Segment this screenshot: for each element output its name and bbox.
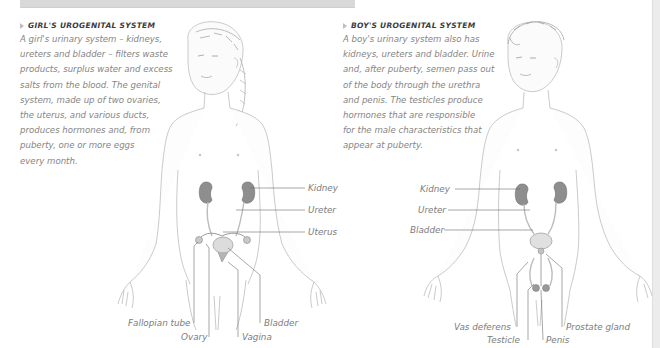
kidney-icon <box>199 182 255 203</box>
bladder-icon <box>530 233 552 292</box>
label-ureter: Ureter <box>418 205 446 215</box>
girl-figure-svg <box>0 0 330 348</box>
label-fallopian-tube: Fallopian tube <box>128 318 191 328</box>
page-edge-strip <box>652 0 660 348</box>
label-penis: Penis <box>546 335 569 345</box>
label-kidney: Kidney <box>420 184 450 194</box>
girl-panel: Girl's urogenital system A girl's urinar… <box>0 0 330 348</box>
label-vagina: Vagina <box>242 332 272 342</box>
label-prostate-gland: Prostate gland <box>566 322 630 332</box>
label-testicle: Testicle <box>487 335 520 345</box>
boy-figure-svg <box>330 0 652 348</box>
label-bladder: Bladder <box>264 318 298 328</box>
label-ovary: Ovary <box>181 332 207 342</box>
label-vas-deferens: Vas deferens <box>454 322 511 332</box>
boy-body-illustration <box>330 0 652 348</box>
kidney-icon <box>515 182 567 205</box>
boy-panel: Boy's urogenital system A boy's urinary … <box>330 0 652 348</box>
girl-body-illustration <box>0 0 330 348</box>
label-bladder: Bladder <box>410 225 444 235</box>
uterus-icon <box>196 233 251 262</box>
